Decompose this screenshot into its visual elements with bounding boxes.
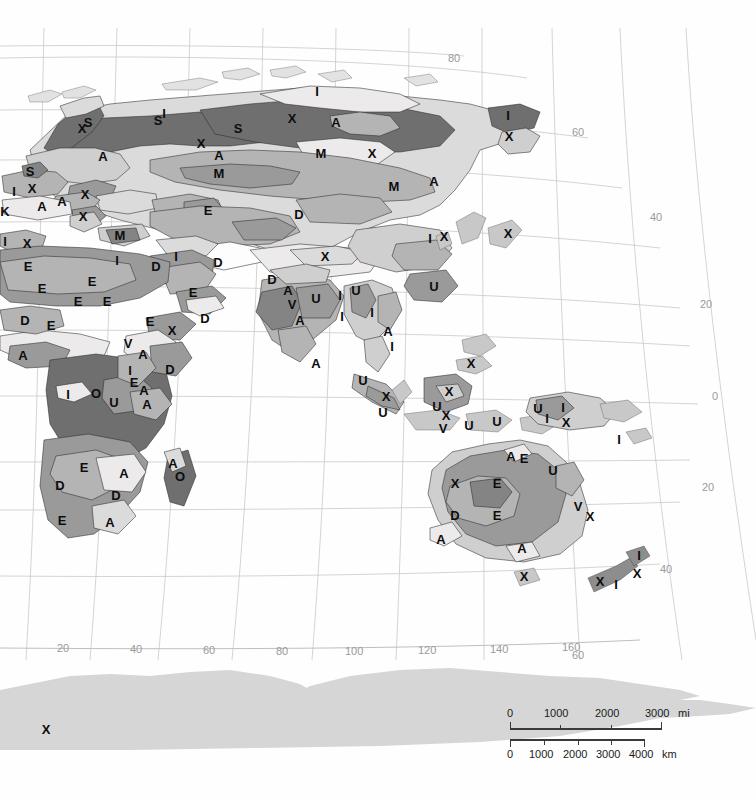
soil-code-label: X [81, 187, 90, 202]
soil-code-label: X [382, 389, 391, 404]
soil-code-label: K [0, 204, 10, 219]
soil-code-label: E [146, 314, 155, 329]
soil-code-label: A [18, 348, 28, 363]
svg-text:20: 20 [702, 481, 714, 493]
soil-code-label: E [38, 281, 47, 296]
soil-code-label: X [440, 229, 449, 244]
landmass-maritime-se-asia [352, 334, 652, 444]
soil-code-label: A [506, 449, 516, 464]
soil-code-label: X [596, 574, 605, 589]
soil-code-label: X [288, 111, 297, 126]
soil-code-label: I [370, 305, 374, 320]
soil-code-label: D [111, 488, 120, 503]
soil-code-label: A [37, 199, 47, 214]
scale-label-km-3000: 3000 [596, 748, 620, 760]
soil-code-label: A [311, 356, 321, 371]
soil-code-label: M [316, 146, 327, 161]
soil-code-label: E [520, 451, 529, 466]
scale-tick-km-0 [510, 739, 511, 747]
soil-code-label: E [24, 259, 33, 274]
svg-text:160: 160 [562, 641, 580, 653]
soil-code-label: X [28, 181, 37, 196]
soil-code-label: X [197, 136, 206, 151]
svg-text:40: 40 [650, 211, 662, 223]
soil-code-label: X [562, 415, 571, 430]
landmass-australia [428, 440, 650, 592]
soil-code-label: U [351, 283, 360, 298]
svg-text:80: 80 [276, 645, 288, 657]
soil-code-label: X [586, 509, 595, 524]
soil-code-label: E [493, 508, 502, 523]
soil-code-label: D [294, 207, 303, 222]
soil-code-label: I [115, 253, 119, 268]
soil-code-label: M [214, 166, 225, 181]
soil-code-label: I [174, 249, 178, 264]
scale-label-mi-3000: 3000 [645, 707, 669, 719]
soil-code-label: I [561, 400, 565, 415]
soil-code-label: X [23, 236, 32, 251]
scale-label-mi-2000: 2000 [595, 707, 619, 719]
svg-text:20: 20 [700, 298, 712, 310]
scale-unit-kilometers: km [662, 748, 677, 760]
soil-code-label: X [445, 384, 454, 399]
soil-code-label: D [267, 272, 276, 287]
soil-code-label: M [389, 179, 400, 194]
soil-code-label: I [390, 339, 394, 354]
scale-label-km-2000: 2000 [563, 748, 587, 760]
soil-code-label: E [189, 285, 198, 300]
soil-code-label: V [574, 499, 583, 514]
soil-code-label: X [168, 323, 177, 338]
soil-code-label: I [3, 234, 7, 249]
svg-text:140: 140 [490, 643, 508, 655]
scale-label-km-0: 0 [507, 748, 513, 760]
svg-text:0: 0 [712, 390, 718, 402]
soil-code-label: A [436, 532, 446, 547]
scale-bar: 0 1000 2000 3000 mi 0 1000 2000 3000 400… [510, 706, 696, 754]
svg-text:100: 100 [345, 645, 363, 657]
soil-code-label: A [139, 383, 149, 398]
soil-code-label: I [66, 387, 70, 402]
soil-code-label: E [88, 274, 97, 289]
soil-code-label: A [119, 466, 129, 481]
soil-code-label: A [295, 313, 305, 328]
svg-text:80: 80 [448, 52, 460, 64]
soil-code-label: U [429, 279, 438, 294]
soil-code-label: I [162, 106, 166, 121]
soil-code-label: E [80, 460, 89, 475]
soil-code-label: U [548, 463, 557, 478]
soil-code-label: E [493, 476, 502, 491]
scale-tick-mi-2000 [611, 725, 612, 730]
scale-label-km-4000: 4000 [629, 748, 653, 760]
svg-text:60: 60 [203, 644, 215, 656]
soil-code-label: A [142, 397, 152, 412]
soil-code-label: D [450, 508, 459, 523]
soil-code-label: V [124, 336, 133, 351]
scale-label-mi-0: 0 [507, 707, 513, 719]
soil-code-label: A [214, 148, 224, 163]
soil-code-label: D [213, 255, 222, 270]
soil-code-label: E [103, 294, 112, 309]
scale-label-mi-1000: 1000 [544, 707, 568, 719]
soil-code-label: X [467, 356, 476, 371]
soil-code-label: I [338, 288, 342, 303]
soil-code-label: A [105, 515, 115, 530]
soil-code-label: A [517, 541, 527, 556]
soil-code-label: A [57, 194, 67, 209]
svg-text:40: 40 [660, 563, 672, 575]
soil-code-label: X [42, 722, 51, 737]
scale-tick-km-3000 [611, 739, 612, 745]
soil-code-label: D [55, 478, 64, 493]
soil-code-label: I [315, 84, 319, 99]
soil-code-label: U [432, 399, 441, 414]
soil-code-label: S [84, 115, 93, 130]
soil-code-label: A [429, 174, 439, 189]
soil-code-label: X [505, 129, 514, 144]
soil-code-label: E [204, 203, 213, 218]
soil-code-label: I [617, 432, 621, 447]
scale-tick-mi-3000 [661, 722, 662, 730]
soil-code-label: X [321, 249, 330, 264]
scale-tick-km-1000 [544, 739, 545, 745]
soil-code-label: U [358, 373, 367, 388]
soil-code-label: S [26, 164, 35, 179]
soil-code-label: I [506, 108, 510, 123]
